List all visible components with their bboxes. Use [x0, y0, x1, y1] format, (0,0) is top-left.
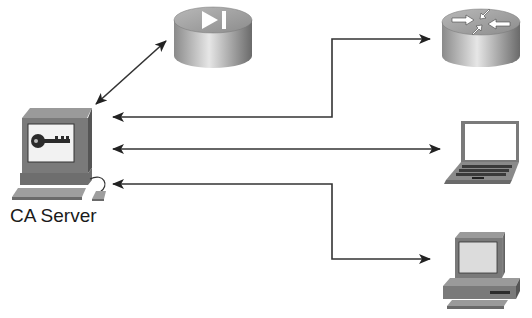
link-ca-to-vpn [96, 41, 166, 104]
workstation-pc-icon [443, 232, 520, 309]
link-ca-to-router [113, 39, 430, 117]
connections [96, 39, 440, 259]
router-icon [442, 9, 520, 67]
vpn-concentrator-icon [174, 7, 252, 68]
pc-with-key-icon [12, 108, 106, 201]
ca-server-label: CA Server [10, 205, 130, 227]
laptop-icon [444, 121, 519, 184]
network-diagram: CA Server [0, 0, 532, 318]
link-ca-to-workstation [113, 184, 430, 259]
